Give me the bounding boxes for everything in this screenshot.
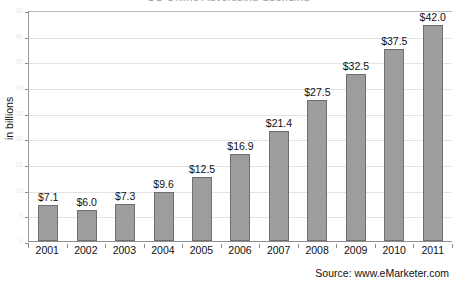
bar-value-label: $16.9 [227, 140, 253, 152]
bar[interactable]: $16.9 [230, 154, 250, 241]
x-axis-tick [221, 244, 222, 248]
x-axis-tick [67, 244, 68, 248]
bar[interactable]: $21.4 [269, 131, 289, 241]
x-axis-tick-label: 2010 [375, 244, 414, 260]
y-axis-tick-label: 0 [19, 238, 23, 245]
plot-area: 051015202530354045 $7.1$6.0$7.3$9.6$12.5… [28, 11, 452, 242]
y-axis-tick-label: 35 [15, 58, 23, 65]
bar-slot: $21.4 [260, 12, 298, 241]
x-axis-tick [452, 244, 453, 248]
bar-slot: $12.5 [183, 12, 221, 241]
x-axis-tick [336, 244, 337, 248]
x-axis-tick [144, 244, 145, 248]
bar-value-label: $32.5 [343, 60, 369, 72]
x-axis-tick-label: 2001 [28, 244, 67, 260]
bar[interactable]: $27.5 [307, 100, 327, 241]
x-axis-tick-label: 2004 [144, 244, 183, 260]
bar[interactable]: $37.5 [384, 49, 404, 242]
bar-slot: $27.5 [298, 12, 336, 241]
bar-slot: $7.1 [29, 12, 67, 241]
bar-value-label: $6.0 [76, 196, 96, 208]
bar-value-label: $7.3 [115, 190, 135, 202]
bar-value-label: $12.5 [189, 163, 215, 175]
x-axis-tick-label: 2008 [298, 244, 337, 260]
x-axis-tick [375, 244, 376, 248]
bar[interactable]: $7.3 [115, 204, 135, 241]
y-axis-tick-label: 25 [15, 110, 23, 117]
x-axis-tick [105, 244, 106, 248]
y-axis-tick-label: 45 [15, 7, 23, 14]
chart-title: US Online Advertising Spending [0, 0, 457, 1]
x-axis-tick [28, 244, 29, 248]
x-axis-tick-label: 2005 [182, 244, 221, 260]
y-axis-tick-label: 30 [15, 84, 23, 91]
y-axis-tick-label: 10 [15, 187, 23, 194]
bar[interactable]: $9.6 [154, 192, 174, 241]
x-axis-tick [259, 244, 260, 248]
bar-slot: $7.3 [106, 12, 144, 241]
x-axis-tick-label: 2006 [221, 244, 260, 260]
chart-figure: US Online Advertising Spending in billio… [0, 0, 457, 282]
bar[interactable]: $7.1 [38, 205, 58, 241]
x-axis-tick [413, 244, 414, 248]
bar-slot: $6.0 [67, 12, 105, 241]
x-axis-tick-label: 2007 [259, 244, 298, 260]
y-axis-title-text: in billions [3, 126, 15, 140]
x-axis-tick [182, 244, 183, 248]
bar-value-label: $7.1 [38, 191, 58, 203]
bar-slot: $42.0 [414, 12, 452, 241]
y-axis-tick-label: 20 [15, 135, 23, 142]
bar-value-label: $9.6 [153, 178, 173, 190]
bar[interactable]: $42.0 [423, 25, 443, 241]
x-axis-tick-label: 2002 [67, 244, 106, 260]
x-axis-tick [298, 244, 299, 248]
bar[interactable]: $6.0 [77, 210, 97, 241]
bar-slot: $9.6 [144, 12, 182, 241]
bar-slot: $37.5 [375, 12, 413, 241]
bar[interactable]: $32.5 [346, 74, 366, 241]
bar-value-label: $21.4 [266, 117, 292, 129]
y-axis-tick-label: 5 [19, 212, 23, 219]
bar-value-label: $42.0 [420, 11, 446, 23]
x-axis-tick-label: 2011 [413, 244, 452, 260]
source-attribution: Source: www.eMarketer.com [315, 267, 449, 279]
bar-value-label: $37.5 [381, 35, 407, 47]
x-axis-tick-label: 2003 [105, 244, 144, 260]
y-axis-tick-label: 40 [15, 33, 23, 40]
y-axis-tick-label: 15 [15, 161, 23, 168]
x-axis-tick-label: 2009 [336, 244, 375, 260]
bar-slot: $16.9 [221, 12, 259, 241]
x-axis-tick-labels: 2001200220032004200520062007200820092010… [28, 244, 452, 260]
bar-series: $7.1$6.0$7.3$9.6$12.5$16.9$21.4$27.5$32.… [29, 12, 452, 241]
y-axis-title: in billions [1, 64, 13, 78]
bar[interactable]: $12.5 [192, 177, 212, 241]
bar-value-label: $27.5 [304, 86, 330, 98]
bar-slot: $32.5 [337, 12, 375, 241]
